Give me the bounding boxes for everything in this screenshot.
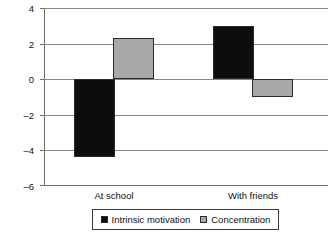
y-tick-label: –2 xyxy=(23,111,34,120)
legend-entry-concentration: Concentration xyxy=(200,215,270,225)
bar-at-school-concentration xyxy=(113,38,154,79)
bar-with-friends-intrinsic-motivation xyxy=(213,26,254,79)
y-tick-label: 4 xyxy=(29,4,34,13)
legend: Intrinsic motivation Concentration xyxy=(92,209,279,230)
legend-swatch-icon xyxy=(200,216,207,223)
y-tick-label: –4 xyxy=(23,146,34,155)
y-tick-label: 0 xyxy=(29,75,34,84)
y-axis-tick-labels: 4 2 0 –2 –4 –6 xyxy=(0,8,38,186)
gridline-2 xyxy=(44,44,328,45)
y-tick-label: –6 xyxy=(23,182,34,191)
x-tick-label-at-school: At school xyxy=(74,190,154,201)
gridline-4 xyxy=(44,8,328,9)
legend-label: Intrinsic motivation xyxy=(112,215,191,225)
gridline-neg6 xyxy=(44,185,328,186)
bar-with-friends-concentration xyxy=(252,79,293,97)
y-tick-label: 2 xyxy=(29,40,34,49)
bar-at-school-intrinsic-motivation xyxy=(74,79,115,157)
x-tick-label-with-friends: With friends xyxy=(213,190,293,201)
legend-swatch-icon xyxy=(101,216,108,223)
legend-label: Concentration xyxy=(211,215,270,225)
plot-area xyxy=(44,8,328,185)
bar-chart: Z score 4 2 0 –2 –4 –6 At school With fr… xyxy=(0,0,332,238)
legend-entry-intrinsic-motivation: Intrinsic motivation xyxy=(101,215,191,225)
